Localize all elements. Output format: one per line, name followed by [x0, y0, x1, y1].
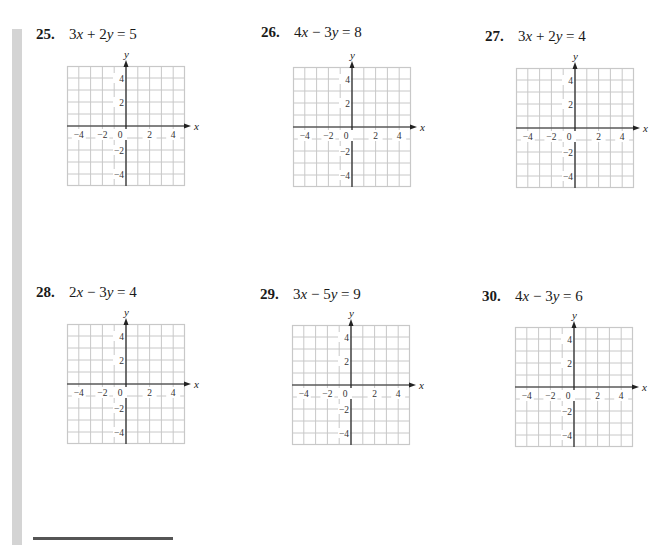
y-tick-label: 4 [119, 74, 124, 84]
x-tick-label: 2 [372, 389, 377, 399]
y-tick-label: 2 [119, 98, 124, 108]
x-axis-arrow-icon [410, 125, 417, 130]
equation: 3x + 2y = 5 [69, 26, 137, 42]
x-tick-label: 0 [567, 132, 572, 142]
problem-number: 27. [485, 29, 518, 44]
x-tick-label: 4 [620, 132, 625, 142]
x-axis-label: x [418, 379, 424, 391]
y-tick-label: 2 [344, 357, 349, 367]
x-tick-label: 4 [397, 131, 402, 141]
x-tick-label: 0 [344, 131, 349, 141]
equation: 3x − 5y = 9 [293, 286, 361, 302]
y-tick-label: −4 [114, 170, 124, 180]
x-axis-label: x [641, 381, 647, 393]
x-tick-label: −2 [323, 131, 333, 141]
y-tick-label: 4 [345, 75, 350, 85]
x-tick-label: −4 [523, 132, 533, 142]
graph-27[interactable]: xy−4−202442−2−4 [516, 68, 634, 188]
problem-number: 28. [36, 285, 69, 300]
y-tick-label: −2 [562, 407, 572, 417]
y-axis-arrow-icon [573, 62, 578, 69]
problem-number: 29. [260, 287, 293, 302]
y-axis-arrow-icon [349, 319, 354, 326]
problem-25-header: 25.3x + 2y = 5 [36, 27, 137, 42]
x-tick-label: −2 [546, 132, 556, 142]
page-margin-strip [12, 29, 22, 545]
x-tick-label: 0 [566, 391, 571, 401]
problem-30-header: 30.4x − 3y = 6 [482, 289, 583, 304]
x-tick-label: 0 [118, 130, 123, 140]
x-axis-arrow-icon [184, 124, 191, 129]
y-axis-label: y [348, 307, 354, 319]
y-axis-arrow-icon [350, 61, 355, 68]
y-tick-label: 4 [344, 333, 349, 343]
y-tick-label: 4 [119, 332, 124, 342]
graph-28[interactable]: xy−4−202442−2−4 [67, 324, 185, 444]
x-tick-label: −4 [299, 389, 309, 399]
y-axis-label: y [123, 48, 129, 60]
x-tick-label: 2 [596, 132, 601, 142]
graph-26[interactable]: xy−4−202442−2−4 [293, 67, 411, 187]
y-tick-label: 2 [345, 99, 350, 109]
equation: 4x − 3y = 8 [294, 24, 362, 40]
x-axis-arrow-icon [184, 382, 191, 387]
x-axis-arrow-icon [632, 385, 639, 390]
y-axis-arrow-icon [124, 60, 129, 67]
y-tick-label: 4 [568, 76, 573, 86]
x-tick-label: −4 [300, 131, 310, 141]
graph-29[interactable]: xy−4−202442−2−4 [292, 325, 410, 445]
y-tick-label: 4 [567, 335, 572, 345]
y-tick-label: −4 [340, 171, 350, 181]
x-tick-label: 4 [171, 388, 176, 398]
coordinate-grid: xy−4−202442−2−4 [515, 327, 653, 467]
x-axis-label: x [193, 378, 199, 390]
x-tick-label: −4 [522, 391, 532, 401]
coordinate-grid: xy−4−202442−2−4 [67, 66, 205, 206]
x-tick-label: −2 [97, 130, 107, 140]
y-axis-arrow-icon [572, 321, 577, 328]
x-tick-label: −4 [74, 130, 84, 140]
y-tick-label: −2 [114, 146, 124, 156]
x-tick-label: 4 [171, 130, 176, 140]
problem-number: 26. [261, 25, 294, 40]
x-tick-label: 0 [118, 388, 123, 398]
equation: 2x − 3y = 4 [69, 284, 137, 300]
x-tick-label: 2 [147, 130, 152, 140]
graph-25[interactable]: xy−4−202442−2−4 [67, 66, 185, 186]
x-tick-label: 4 [396, 389, 401, 399]
problem-29-header: 29.3x − 5y = 9 [260, 287, 361, 302]
graph-30[interactable]: xy−4−202442−2−4 [515, 327, 633, 447]
y-tick-label: −4 [114, 428, 124, 438]
x-axis-label: x [642, 122, 648, 134]
y-tick-label: −2 [563, 148, 573, 158]
y-tick-label: −4 [562, 431, 572, 441]
problem-27-header: 27.3x + 2y = 4 [485, 29, 586, 44]
equation: 4x − 3y = 6 [515, 288, 583, 304]
x-tick-label: 2 [147, 388, 152, 398]
equation: 3x + 2y = 4 [518, 28, 586, 44]
y-axis-label: y [572, 50, 578, 62]
problem-28-header: 28.2x − 3y = 4 [36, 285, 137, 300]
coordinate-grid: xy−4−202442−2−4 [292, 325, 430, 465]
coordinate-grid: xy−4−202442−2−4 [293, 67, 431, 207]
y-axis-label: y [349, 49, 355, 61]
x-tick-label: 0 [343, 389, 348, 399]
problem-number: 25. [36, 27, 69, 42]
y-tick-label: −2 [339, 405, 349, 415]
y-tick-label: 2 [119, 356, 124, 366]
x-axis-arrow-icon [633, 126, 640, 131]
x-tick-label: −2 [97, 388, 107, 398]
coordinate-grid: xy−4−202442−2−4 [67, 324, 205, 464]
y-axis-arrow-icon [124, 318, 129, 325]
x-tick-label: −2 [545, 391, 555, 401]
problem-number: 30. [482, 289, 515, 304]
footer-rule [33, 537, 173, 540]
x-tick-label: −4 [74, 388, 84, 398]
y-axis-label: y [123, 306, 129, 318]
y-tick-label: −4 [339, 429, 349, 439]
x-axis-label: x [419, 121, 425, 133]
coordinate-grid: xy−4−202442−2−4 [516, 68, 654, 208]
problem-26-header: 26.4x − 3y = 8 [261, 25, 362, 40]
y-tick-label: −4 [563, 172, 573, 182]
x-tick-label: 4 [619, 391, 624, 401]
